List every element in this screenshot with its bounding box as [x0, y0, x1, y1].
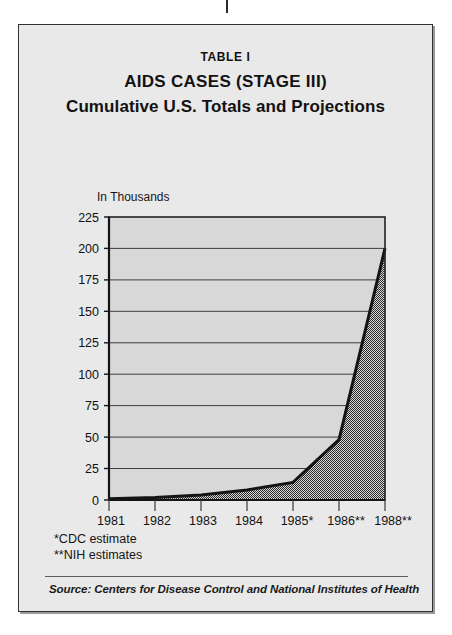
footnote-nih: **NIH estimates — [54, 547, 142, 563]
chart-area: In Thousands — [19, 25, 434, 613]
ytick-label-75: 75 — [85, 399, 99, 413]
footnotes-block: *CDC estimate **NIH estimates — [54, 531, 142, 563]
table-card: TABLE I AIDS CASES (STAGE III) Cumulativ… — [18, 24, 433, 612]
ytick-label-175: 175 — [78, 273, 99, 287]
ytick-label-25: 25 — [85, 462, 99, 476]
registration-mark — [226, 0, 228, 13]
footnote-cdc: *CDC estimate — [54, 531, 142, 547]
xtick-label-1981: 1981 — [97, 514, 125, 528]
xtick-label-1984: 1984 — [235, 514, 263, 528]
y-tick-labels: 225 200 175 150 125 100 75 50 25 0 — [78, 211, 99, 508]
xtick-label-1982: 1982 — [143, 514, 171, 528]
ytick-label-125: 125 — [78, 336, 99, 350]
xtick-label-1986: 1986** — [327, 514, 365, 528]
xtick-label-1988: 1988** — [374, 514, 412, 528]
area-chart-svg: 225 200 175 150 125 100 75 50 25 0 1981 … — [19, 25, 434, 613]
plot-group: 225 200 175 150 125 100 75 50 25 0 1981 … — [78, 211, 412, 529]
ytick-label-200: 200 — [78, 242, 99, 256]
xtick-label-1983: 1983 — [189, 514, 217, 528]
x-tick-marks — [109, 500, 385, 511]
ytick-label-0: 0 — [92, 494, 99, 508]
x-tick-labels: 1981 1982 1983 1984 1985* 1986** 1988** — [97, 514, 412, 528]
source-attribution: Source: Centers for Disease Control and … — [49, 583, 409, 595]
ytick-label-50: 50 — [85, 431, 99, 445]
ytick-label-225: 225 — [78, 211, 99, 225]
xtick-label-1985: 1985* — [281, 514, 314, 528]
ytick-label-150: 150 — [78, 305, 99, 319]
source-divider — [45, 576, 408, 577]
ytick-label-100: 100 — [78, 368, 99, 382]
